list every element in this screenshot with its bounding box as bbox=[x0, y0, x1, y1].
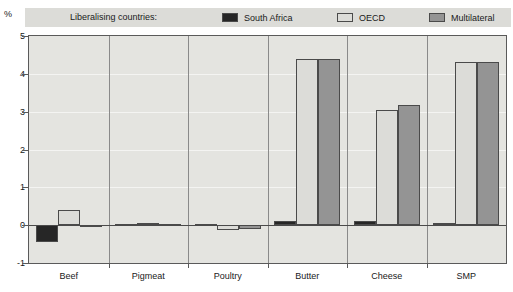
category-separator-pigmeat bbox=[109, 36, 110, 263]
x-axis-label-beef: Beef bbox=[59, 271, 78, 281]
x-axis-label-smp: SMP bbox=[456, 271, 476, 281]
legend-entry-south-africa: South Africa bbox=[222, 12, 293, 23]
legend-swatch-oecd bbox=[337, 13, 353, 22]
legend-swatch-multilateral bbox=[429, 13, 445, 22]
chart-page: Liberalising countries: South Africa OEC… bbox=[0, 0, 513, 292]
legend-title: Liberalising countries: bbox=[70, 12, 157, 22]
x-tick-mark-butter bbox=[268, 264, 269, 268]
x-axis-label-poultry: Poultry bbox=[214, 271, 242, 281]
zero-baseline bbox=[29, 225, 506, 226]
bar-butter-oecd bbox=[296, 59, 318, 225]
category-separator-butter bbox=[268, 36, 269, 263]
category-separator-smp bbox=[427, 36, 428, 263]
bar-smp-multilateral bbox=[477, 62, 499, 225]
bar-cheese-oecd bbox=[376, 110, 398, 225]
x-axis-label-cheese: Cheese bbox=[371, 271, 402, 281]
x-tick-mark-poultry bbox=[188, 264, 189, 268]
legend-label-oecd: OECD bbox=[359, 13, 385, 23]
bar-cheese-multilateral bbox=[398, 105, 420, 225]
bar-butter-multilateral bbox=[318, 59, 340, 225]
y-axis-unit-label: % bbox=[4, 9, 12, 19]
x-axis-label-butter: Butter bbox=[295, 271, 319, 281]
x-tick-mark-smp bbox=[427, 264, 428, 268]
legend-entry-multilateral: Multilateral bbox=[429, 12, 495, 23]
legend-entry-oecd: OECD bbox=[337, 12, 385, 23]
bar-smp-oecd bbox=[455, 62, 477, 225]
plot-area bbox=[28, 35, 507, 264]
x-axis-label-pigmeat: Pigmeat bbox=[132, 271, 165, 281]
bar-beef-oecd bbox=[58, 210, 80, 225]
bar-beef-south-africa bbox=[36, 225, 58, 242]
chart-legend: Liberalising countries: South Africa OEC… bbox=[25, 8, 511, 27]
legend-label-multilateral: Multilateral bbox=[451, 13, 495, 23]
x-tick-mark-cheese bbox=[347, 264, 348, 268]
x-tick-mark-pigmeat bbox=[109, 264, 110, 268]
category-separator-cheese bbox=[347, 36, 348, 263]
category-separator-poultry bbox=[188, 36, 189, 263]
legend-swatch-south-africa bbox=[222, 13, 238, 22]
legend-label-south-africa: South Africa bbox=[244, 13, 293, 23]
